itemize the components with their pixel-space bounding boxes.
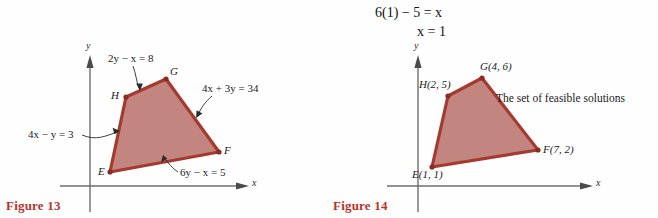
figure-14-panel: 6(1) − 5 = x x = 1 y x E(1, 1) xyxy=(329,0,658,218)
vertex-label-E-figure-14: E(1, 1) xyxy=(412,168,443,180)
constraint-label-top-left: 2y − x = 8 xyxy=(108,52,153,64)
y-axis-label-figure-13: y xyxy=(86,40,90,51)
leader-arrowhead-top-right xyxy=(196,110,202,118)
vertex-label-G-figure-13: G xyxy=(170,65,178,77)
constraint-label-bottom: 6y − x = 5 xyxy=(180,166,225,178)
vertex-dot-F xyxy=(216,149,221,154)
vertex-label-H-figure-14: H(2, 5) xyxy=(419,78,451,90)
constraint-label-left: 4x − y = 3 xyxy=(28,128,73,140)
leader-line-top-right xyxy=(198,96,212,115)
figure-13-graphic xyxy=(0,0,329,218)
figure-13-caption: Figure 13 xyxy=(6,198,61,214)
vertex-label-F-figure-13: F xyxy=(224,144,231,156)
constraint-label-top-right: 4x + 3y = 34 xyxy=(202,82,258,94)
vertex-dot-H xyxy=(123,94,128,99)
figure-14-graphic xyxy=(329,0,658,218)
vertex-dot-E xyxy=(107,169,112,174)
x-axis-label-figure-13: x xyxy=(252,177,256,188)
y-axis-label-figure-14: y xyxy=(414,40,418,51)
feasible-region-annotation: The set of feasible solutions xyxy=(496,92,625,104)
y-axis-figure-13 xyxy=(86,55,93,212)
x-axis-figure-13 xyxy=(60,182,249,189)
vertex-dot-F xyxy=(535,147,540,152)
textbook-figure-page: y x 2y − x = 8 4x + 3y = 34 4x − y = 3 6… xyxy=(0,0,658,218)
vertex-label-G-figure-14: G(4, 6) xyxy=(480,60,512,72)
figure-13-panel: y x 2y − x = 8 4x + 3y = 34 4x − y = 3 6… xyxy=(0,0,329,218)
vertex-dot-G xyxy=(479,75,484,80)
x-axis-label-figure-14: x xyxy=(596,177,600,188)
vertex-dot-G xyxy=(163,76,168,81)
vertex-label-H-figure-13: H xyxy=(111,89,119,101)
figure-14-caption: Figure 14 xyxy=(333,198,388,214)
leader-line-left xyxy=(82,132,117,138)
vertex-label-F-figure-14: F(7, 2) xyxy=(543,143,574,155)
vertex-dot-H xyxy=(445,93,450,98)
vertex-label-E-figure-13: E xyxy=(98,165,105,177)
